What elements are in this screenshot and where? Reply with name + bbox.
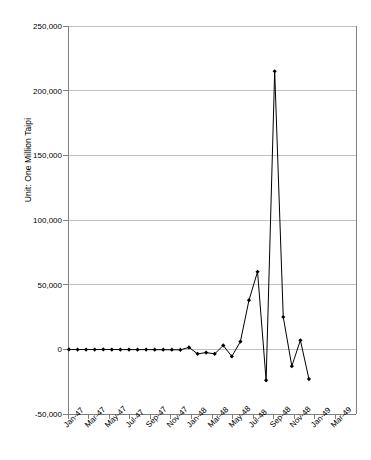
x-tick-label: May-48 [227, 404, 252, 429]
x-tick-label: Mar-47 [83, 405, 107, 429]
x-tick-label: Jan-47 [62, 406, 86, 430]
x-axis-tick-labels: Jan-47 Mar-47 May-47 Jul-47 Sep-47 Nov-4… [0, 0, 371, 460]
x-tick-label: Sep-48 [268, 405, 293, 430]
chart-container: Unit: One Million Taipi 250,000 200,000 … [0, 0, 371, 460]
x-tick-label: Mar-48 [206, 405, 230, 429]
x-tick-label: Nov-47 [165, 405, 190, 430]
x-tick-label: Nov-48 [288, 405, 313, 430]
x-tick-label: Mar-49 [329, 405, 353, 429]
x-tick-label: Sep-47 [144, 405, 169, 430]
x-tick-label: Jan-49 [309, 406, 333, 430]
x-tick-label: May-47 [103, 404, 128, 429]
